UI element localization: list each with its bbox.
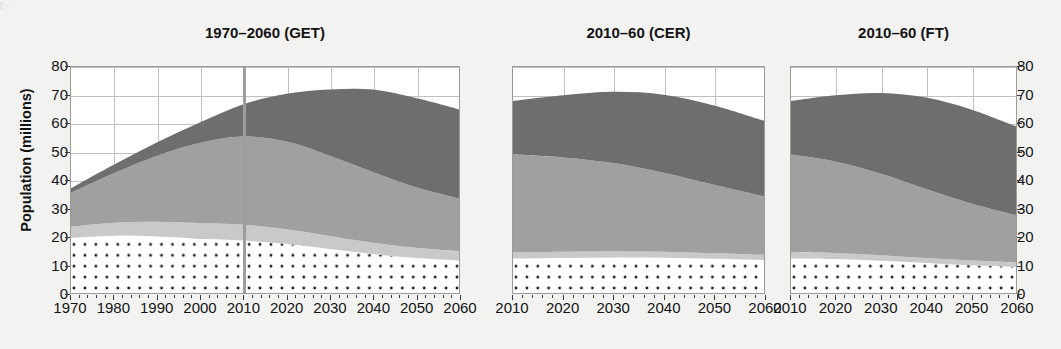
y-tick-mark: [65, 294, 70, 295]
y-tick-label-20: 20: [34, 229, 68, 244]
x-minor-tick: [817, 295, 818, 298]
x-minor-tick: [704, 295, 705, 298]
x-minor-tick: [981, 295, 982, 298]
x-minor-tick: [623, 295, 624, 298]
y-tick-label-10: 10: [1017, 258, 1051, 273]
x-minor-tick: [408, 295, 409, 298]
x-minor-tick: [684, 295, 685, 298]
x-minor-tick: [191, 295, 192, 298]
x-minor-tick: [844, 295, 845, 298]
y-tick-mark: [1017, 152, 1022, 153]
x-minor-tick: [87, 295, 88, 298]
y-tick-mark: [1017, 66, 1022, 67]
x-minor-tick: [278, 295, 279, 298]
stacked-area-layers: [791, 67, 1016, 293]
plot-area-ft: [790, 66, 1017, 294]
x-minor-tick: [174, 295, 175, 298]
panel-title-ft: 2010–60 (FT): [790, 24, 1017, 41]
x-minor-tick: [356, 295, 357, 298]
y-tick-mark: [1017, 123, 1022, 124]
x-minor-tick: [304, 295, 305, 298]
x-minor-tick: [321, 295, 322, 298]
x-minor-tick: [917, 295, 918, 298]
x-minor-tick: [899, 295, 900, 298]
panel-cer: 2010–60 (CER): [512, 0, 765, 349]
x-minor-tick: [313, 295, 314, 298]
x-minor-tick: [999, 295, 1000, 298]
x-minor-tick: [217, 295, 218, 298]
x-minor-tick: [269, 295, 270, 298]
panel-get: 1970–2060 (GET): [70, 0, 460, 349]
x-minor-tick: [122, 295, 123, 298]
x-minor-tick: [131, 295, 132, 298]
y-tick-mark: [65, 237, 70, 238]
x-minor-tick: [542, 295, 543, 298]
x-minor-tick: [235, 295, 236, 298]
x-minor-tick: [425, 295, 426, 298]
x-minor-tick: [603, 295, 604, 298]
y-tick-mark: [1017, 209, 1022, 210]
y-tick-label-80: 80: [1017, 58, 1051, 73]
y-tick-mark: [65, 123, 70, 124]
x-minor-tick: [826, 295, 827, 298]
x-minor-tick: [522, 295, 523, 298]
y-tick-label-70: 70: [34, 87, 68, 102]
x-minor-tick: [96, 295, 97, 298]
x-minor-tick: [1008, 295, 1009, 298]
x-minor-tick: [755, 295, 756, 298]
y-tick-label-60: 60: [1017, 115, 1051, 130]
history-projection-divider: [243, 67, 246, 293]
y-tick-label-10: 10: [34, 258, 68, 273]
y-tick-label-80: 80: [34, 58, 68, 73]
x-minor-tick: [339, 295, 340, 298]
y-tick-label-60: 60: [34, 115, 68, 130]
x-minor-tick: [295, 295, 296, 298]
y-tick-mark: [65, 266, 70, 267]
plot-area-get: [70, 66, 460, 294]
x-minor-tick: [252, 295, 253, 298]
y-tick-mark: [65, 152, 70, 153]
panel-title-cer: 2010–60 (CER): [512, 24, 765, 41]
x-minor-tick: [148, 295, 149, 298]
figure-stacked-area-population: Population (millions) 01020304050607080 …: [0, 0, 1061, 349]
x-minor-tick: [890, 295, 891, 298]
x-minor-tick: [745, 295, 746, 298]
y-tick-label-50: 50: [1017, 144, 1051, 159]
stacked-area-layers: [71, 67, 459, 293]
x-minor-tick: [399, 295, 400, 298]
x-minor-tick: [443, 295, 444, 298]
x-minor-tick: [79, 295, 80, 298]
x-minor-tick: [935, 295, 936, 298]
y-tick-label-20: 20: [1017, 229, 1051, 244]
x-minor-tick: [808, 295, 809, 298]
x-minor-tick: [261, 295, 262, 298]
y-tick-label-30: 30: [34, 201, 68, 216]
x-minor-tick: [872, 295, 873, 298]
x-minor-tick: [990, 295, 991, 298]
plot-area-cer: [512, 66, 765, 294]
x-minor-tick: [105, 295, 106, 298]
x-minor-tick: [434, 295, 435, 298]
y-axis-left-ticks: 01020304050607080: [34, 0, 68, 349]
y-axis-right-ticks: 01020304050607080: [1017, 0, 1051, 349]
x-minor-tick: [654, 295, 655, 298]
x-minor-tick: [633, 295, 634, 298]
x-minor-tick: [183, 295, 184, 298]
x-minor-tick: [391, 295, 392, 298]
y-tick-mark: [1017, 294, 1022, 295]
y-tick-mark: [65, 209, 70, 210]
x-minor-tick: [165, 295, 166, 298]
y-tick-label-70: 70: [1017, 87, 1051, 102]
y-tick-mark: [65, 180, 70, 181]
y-tick-mark: [1017, 237, 1022, 238]
stacked-area-layers: [513, 67, 764, 293]
panel-ft: 2010–60 (FT): [790, 0, 1017, 349]
y-tick-label-50: 50: [34, 144, 68, 159]
x-tick-label-2060: 2060: [430, 300, 490, 316]
x-minor-tick: [735, 295, 736, 298]
y-tick-mark: [65, 95, 70, 96]
x-minor-tick: [799, 295, 800, 298]
x-minor-tick: [382, 295, 383, 298]
y-tick-label-40: 40: [34, 172, 68, 187]
x-minor-tick: [674, 295, 675, 298]
